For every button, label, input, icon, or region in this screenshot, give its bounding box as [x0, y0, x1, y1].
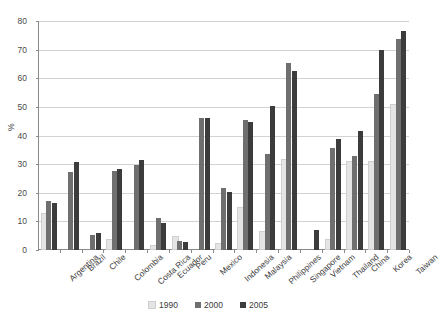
- bar: [286, 63, 291, 250]
- bar-group: [213, 21, 235, 250]
- y-tick-mark: [36, 250, 39, 251]
- bar: [68, 172, 73, 250]
- bar: [183, 242, 188, 250]
- bar-group: [103, 21, 125, 250]
- bar-group: [278, 21, 300, 250]
- bar: [117, 169, 122, 250]
- bar: [156, 218, 161, 250]
- x-axis-label: Korea: [391, 252, 414, 274]
- legend-item: 1990: [148, 301, 178, 310]
- legend-swatch-icon: [240, 302, 246, 308]
- bar-group: [300, 21, 322, 250]
- bar: [358, 131, 363, 250]
- legend-item: 2000: [195, 301, 223, 310]
- y-tick-label: 70: [3, 45, 27, 54]
- legend-swatch-icon: [148, 301, 156, 309]
- bar: [52, 203, 57, 250]
- bar: [270, 106, 275, 250]
- bar: [396, 39, 401, 250]
- x-axis-label: Taiwan: [414, 252, 440, 277]
- legend-label: 2000: [204, 301, 223, 310]
- bar: [248, 122, 253, 250]
- bar-group: [125, 21, 147, 250]
- bar-group: [322, 21, 344, 250]
- bar: [227, 192, 232, 250]
- bar: [90, 235, 95, 250]
- bar: [330, 148, 335, 250]
- bar: [401, 31, 406, 250]
- x-axis-label: Chile: [106, 252, 127, 272]
- bar: [199, 118, 204, 250]
- bar-group: [387, 21, 409, 250]
- y-tick-label: 30: [3, 160, 27, 169]
- x-axis-labels: ArgentinaBrazilChileColombiaCosta RicaEc…: [38, 252, 409, 298]
- bar-group: [365, 21, 387, 250]
- y-axis-title: %: [6, 123, 16, 131]
- y-tick-label: 40: [3, 131, 27, 140]
- bar: [314, 230, 319, 250]
- y-tick-label: 10: [3, 217, 27, 226]
- bar: [352, 156, 357, 250]
- legend-label: 2005: [249, 301, 268, 310]
- legend-label: 1990: [159, 301, 178, 310]
- legend-swatch-icon: [195, 302, 201, 308]
- bar: [374, 94, 379, 250]
- bar: [265, 154, 270, 250]
- bar-group: [82, 21, 104, 250]
- y-tick-label: 80: [3, 17, 27, 26]
- bar: [96, 233, 101, 250]
- bar: [139, 160, 144, 250]
- x-axis-label: Mexico: [217, 252, 243, 277]
- bar: [336, 139, 341, 250]
- bar: [74, 162, 79, 250]
- y-tick-label: 50: [3, 103, 27, 112]
- y-tick-label: 0: [3, 246, 27, 255]
- bar: [205, 118, 210, 250]
- bar-group: [191, 21, 213, 250]
- y-tick-label: 60: [3, 74, 27, 83]
- x-tick-mark: [409, 250, 410, 253]
- bar-group: [169, 21, 191, 250]
- legend-item: 2005: [240, 301, 268, 310]
- bar: [46, 201, 51, 250]
- bar-group: [344, 21, 366, 250]
- bar: [161, 223, 166, 250]
- bar: [243, 120, 248, 250]
- bar-group: [38, 21, 60, 250]
- bar-group: [234, 21, 256, 250]
- bar: [221, 188, 226, 250]
- bar-group: [256, 21, 278, 250]
- y-tick-label: 20: [3, 189, 27, 198]
- bar: [112, 171, 117, 250]
- bar-group: [60, 21, 82, 250]
- bar: [292, 71, 297, 250]
- bar-group: [147, 21, 169, 250]
- bar: [379, 50, 384, 250]
- bar: [177, 241, 182, 250]
- chart-legend: 199020002005: [0, 301, 416, 310]
- bar: [134, 165, 139, 250]
- bars-layer: [38, 21, 409, 250]
